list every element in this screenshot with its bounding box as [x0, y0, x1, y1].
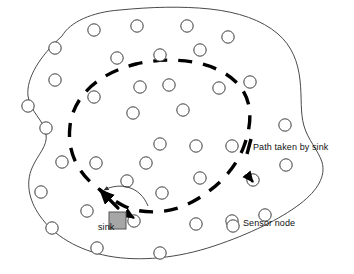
sensor-node [127, 107, 139, 119]
sensor-node [49, 74, 61, 86]
sensor-node [56, 156, 68, 168]
legend-circle-icon [227, 220, 239, 232]
sensor-node [81, 205, 93, 217]
sensor-node [111, 52, 123, 64]
sensor-node [156, 187, 168, 199]
sensor-node [88, 91, 100, 103]
sensor-node [35, 186, 47, 198]
sensor-node [140, 157, 152, 169]
sensor-node [226, 140, 238, 152]
sensor-node [177, 104, 189, 116]
sensor-node [244, 76, 256, 88]
sensor-node [134, 81, 146, 93]
sensor-node [88, 24, 100, 36]
sensor-node [46, 222, 58, 234]
sensor-node [222, 31, 234, 43]
sensor-node [154, 138, 166, 150]
sensor-node [154, 247, 166, 259]
sensor-node [194, 44, 206, 56]
sensor-node [190, 140, 202, 152]
sensor-node [194, 172, 206, 184]
sensor-node [279, 119, 291, 131]
sensor-node [91, 242, 103, 254]
sensor-node [131, 20, 143, 32]
sensor-node [247, 174, 259, 186]
sensor-node [90, 157, 102, 169]
sensor-node [181, 20, 193, 32]
sensor-node [213, 82, 225, 94]
sensor-node [280, 159, 292, 171]
sensor-node [163, 79, 175, 91]
sink-label: sink [98, 222, 114, 232]
sensor-node [22, 100, 34, 112]
sensor-node [190, 218, 202, 230]
sensor-node [49, 42, 61, 54]
sensor-node [154, 49, 166, 61]
sensor-network-diagram [0, 0, 354, 274]
legend-node-marker [227, 220, 239, 232]
sensor-node [121, 175, 133, 187]
sensor-node-legend-label: Sensor node [243, 218, 295, 228]
path-legend-label: Path taken by sink [253, 142, 328, 152]
sensor-node [40, 122, 52, 134]
